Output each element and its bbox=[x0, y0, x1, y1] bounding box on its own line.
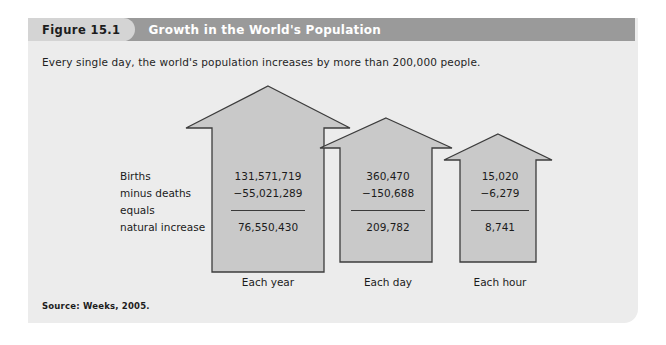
value-column-each-day: 360,470 −150,688 209,782 bbox=[340, 168, 436, 236]
chart-area: Births minus deaths equals natural incre… bbox=[28, 18, 638, 323]
value-natural-increase-each-hour: 8,741 bbox=[452, 219, 548, 236]
value-natural-increase-each-day: 209,782 bbox=[340, 219, 436, 236]
value-deaths-each-year: −55,021,289 bbox=[220, 185, 316, 202]
category-label-each-day: Each day bbox=[333, 276, 443, 288]
value-births-each-hour: 15,020 bbox=[452, 168, 548, 185]
figure-source-note: Source: Weeks, 2005. bbox=[42, 301, 150, 311]
row-label-births: Births bbox=[120, 168, 230, 185]
category-label-each-year: Each year bbox=[213, 276, 323, 288]
row-label-natural-increase: natural increase bbox=[120, 219, 230, 236]
figure-root: Figure 15.1 Growth in the World's Popula… bbox=[0, 0, 666, 345]
value-deaths-each-hour: −6,279 bbox=[452, 185, 548, 202]
row-label-minus-deaths: minus deaths bbox=[120, 185, 230, 202]
value-column-each-hour: 15,020 −6,279 8,741 bbox=[452, 168, 548, 236]
value-column-each-year: 131,571,719 −55,021,289 76,550,430 bbox=[220, 168, 316, 236]
row-label-stub: Births minus deaths equals natural incre… bbox=[120, 168, 230, 236]
value-natural-increase-each-year: 76,550,430 bbox=[220, 219, 316, 236]
value-deaths-each-day: −150,688 bbox=[340, 185, 436, 202]
category-label-each-hour: Each hour bbox=[445, 276, 555, 288]
value-births-each-day: 360,470 bbox=[340, 168, 436, 185]
value-rule-each-year bbox=[220, 202, 316, 219]
row-label-equals: equals bbox=[120, 202, 230, 219]
figure-panel: Figure 15.1 Growth in the World's Popula… bbox=[28, 18, 638, 323]
value-rule-each-day bbox=[340, 202, 436, 219]
value-births-each-year: 131,571,719 bbox=[220, 168, 316, 185]
value-rule-each-hour bbox=[452, 202, 548, 219]
